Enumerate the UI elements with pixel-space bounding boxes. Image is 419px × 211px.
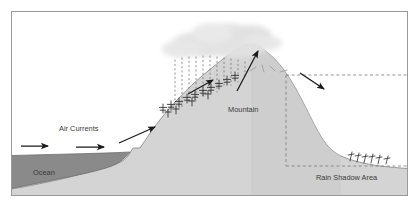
label-air-currents: Air Currents	[59, 124, 99, 133]
label-rain-shadow-area: Rain Shadow Area	[316, 173, 378, 182]
rain-shadow-diagram: Ocean Air Currents Mountain Rain Shadow …	[0, 0, 419, 211]
label-mountain: Mountain	[228, 105, 258, 114]
label-ocean: Ocean	[33, 168, 55, 177]
diagram-canvas: Ocean Air Currents Mountain Rain Shadow …	[0, 0, 419, 211]
